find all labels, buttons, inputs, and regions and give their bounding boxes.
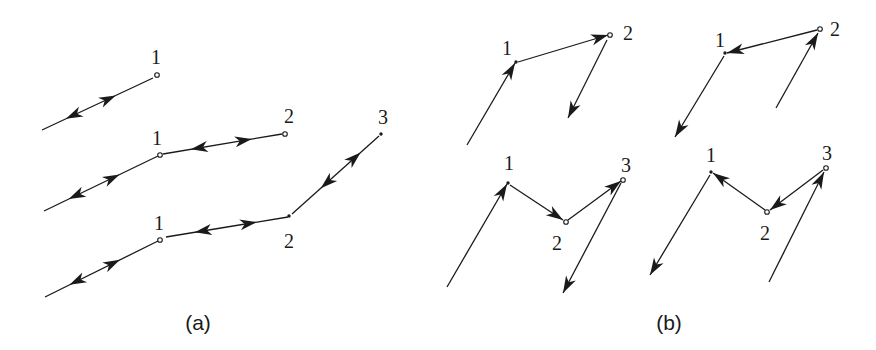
chain-three-nodes: 123 xyxy=(45,106,388,297)
edge xyxy=(518,35,608,62)
node-2 xyxy=(564,220,569,225)
node-label: 1 xyxy=(502,37,512,59)
node-label: 3 xyxy=(822,142,832,164)
arrowhead-icon xyxy=(66,107,84,119)
arrowhead-icon xyxy=(102,260,120,272)
node-label: 1 xyxy=(152,127,162,149)
panel-a: 112123 xyxy=(42,46,388,297)
arrowhead-icon xyxy=(69,187,87,199)
node-label: 1 xyxy=(504,152,514,174)
arrowhead-icon xyxy=(713,173,730,187)
edge xyxy=(675,56,724,137)
node-2 xyxy=(765,210,770,215)
chain-one-node: 1 xyxy=(42,46,161,130)
panel-b: 1212123123 xyxy=(447,18,840,293)
node-1 xyxy=(158,238,163,243)
node-label: 2 xyxy=(552,232,562,254)
arrowhead-icon xyxy=(770,195,787,210)
node-3 xyxy=(824,166,829,171)
node-label: 1 xyxy=(154,212,164,234)
edge xyxy=(568,40,607,118)
node-1 xyxy=(506,181,509,184)
chain-two-nodes: 12 xyxy=(44,105,294,211)
node-label: 3 xyxy=(378,106,388,128)
arrowhead-icon xyxy=(805,33,818,51)
edge xyxy=(447,184,507,287)
arrowhead-icon xyxy=(563,275,576,293)
node-1 xyxy=(723,51,726,54)
arrowhead-icon xyxy=(650,258,663,275)
node-2 xyxy=(608,33,613,38)
arrowhead-icon xyxy=(102,175,120,187)
panel-a-caption: (a) xyxy=(185,311,211,334)
edge xyxy=(44,156,158,211)
node-label: 2 xyxy=(623,22,633,44)
edge xyxy=(563,183,621,293)
edge xyxy=(769,172,824,282)
node-3 xyxy=(379,132,382,135)
node-label: 2 xyxy=(760,222,770,244)
node-label: 2 xyxy=(284,105,294,127)
node-label: 2 xyxy=(830,18,840,40)
node-1 xyxy=(155,73,160,78)
edge xyxy=(727,30,817,53)
edge xyxy=(166,217,288,237)
cycle-bottom-right: 123 xyxy=(650,142,832,282)
node-2 xyxy=(287,214,290,217)
node-1 xyxy=(514,60,517,63)
cycle-bottom-left: 123 xyxy=(447,152,631,293)
arrowhead-icon xyxy=(568,100,581,118)
edge xyxy=(292,136,379,214)
node-label: 3 xyxy=(621,154,631,176)
node-2 xyxy=(818,27,823,32)
node-1 xyxy=(709,170,712,173)
node-label: 1 xyxy=(715,29,725,51)
diagram-canvas: 112123 1212123123 (a) (b) xyxy=(0,0,876,350)
node-3 xyxy=(621,178,626,183)
arrowhead-icon xyxy=(546,206,563,220)
edge xyxy=(42,78,153,130)
edge xyxy=(776,33,818,108)
arrowhead-icon xyxy=(675,120,689,137)
arrowhead-icon xyxy=(69,272,87,284)
edge xyxy=(650,175,710,275)
panel-b-caption: (b) xyxy=(656,311,682,334)
arrowhead-icon xyxy=(494,184,507,201)
edge xyxy=(45,241,158,297)
cycle-top-left: 12 xyxy=(467,22,633,145)
edge xyxy=(467,63,515,145)
node-2 xyxy=(283,132,288,137)
arrowhead-icon xyxy=(502,63,515,80)
edge xyxy=(163,134,282,154)
cycle-top-right: 12 xyxy=(675,18,840,137)
node-label: 1 xyxy=(151,46,161,68)
node-1 xyxy=(158,153,163,158)
arrowhead-icon xyxy=(98,95,116,107)
node-label: 2 xyxy=(284,230,294,252)
node-label: 1 xyxy=(706,144,716,166)
